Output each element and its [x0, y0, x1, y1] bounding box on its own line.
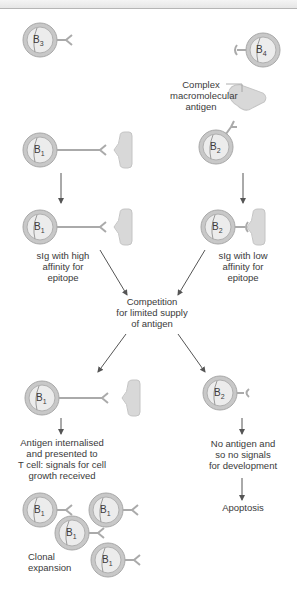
internalised-label: Antigen internalisedand presented toT ce…	[10, 437, 114, 481]
low-affinity-label: sIg with lowaffinity forepitope	[208, 250, 278, 283]
apoptosis-label: Apoptosis	[210, 502, 276, 513]
cell-label-b2-top: B2	[210, 141, 221, 156]
b-cell-b2-unselected	[203, 376, 249, 410]
cell-label-clone2: B1	[100, 504, 111, 519]
no-antigen-label: No antigen andso no signalsfor developme…	[200, 438, 286, 471]
cell-label-b2-mid: B2	[212, 221, 223, 236]
b-cell-b3	[23, 23, 72, 57]
high-affinity-label: sIg with highaffinity forepitope	[28, 250, 98, 283]
cell-label-clone1: B1	[34, 504, 45, 519]
cell-label-b1-mid: B1	[34, 221, 45, 236]
cell-label-b4: B4	[256, 44, 267, 59]
b-cell-b2-mid	[201, 209, 265, 245]
antigen-label: Complexmacromolecularantigen	[170, 79, 232, 112]
cell-label-clone3: B1	[66, 527, 77, 542]
cell-label-b1-selected: B1	[36, 392, 47, 407]
competition-label: Competitionfor limited supplyof antigen	[102, 296, 202, 329]
clonal-expansion-label: Clonalexpansion	[28, 551, 71, 573]
cell-label-b2-unselected: B2	[214, 387, 225, 402]
clone-cell-4	[91, 543, 140, 577]
cell-label-clone4: B1	[102, 554, 113, 569]
cell-label-b3: B3	[33, 34, 44, 49]
clone-cell-2	[89, 493, 138, 527]
cell-label-b1-top: B1	[34, 144, 45, 159]
